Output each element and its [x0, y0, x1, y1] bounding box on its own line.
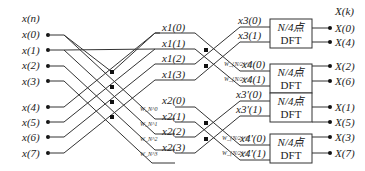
svg-text:x3'(0): x3'(0)	[235, 88, 262, 101]
svg-text:X(5): X(5)	[334, 116, 355, 129]
svg-text:W_{N/2}^0: W_{N/2}^0	[224, 61, 251, 68]
input-x3: x(3)	[21, 75, 40, 88]
dft-box-4: N/4点 DFT	[270, 134, 312, 163]
svg-text:x3(0): x3(0)	[237, 14, 262, 27]
stage1-lower-labels: x2(0) x2(1) x2(2) x2(3)	[161, 94, 186, 154]
stage2-block-b-labels: x3'(0) x3'(1) x4'(0) x4'(1) W_{N/2}^0 W_…	[222, 88, 266, 160]
svg-text:N/4点: N/4点	[277, 66, 307, 78]
input-x4: x(4)	[21, 101, 40, 114]
svg-text:W_{N/2}^1: W_{N/2}^1	[224, 76, 251, 83]
input-labels: x(0) x(1) x(2) x(3) x(4) x(5) x(6) x(7)	[21, 28, 40, 160]
dft-box-2: N/4点 DFT	[270, 64, 312, 93]
svg-text:W_N^0: W_N^0	[140, 106, 158, 112]
svg-text:X(6): X(6)	[334, 75, 355, 88]
stage1-wires	[48, 33, 175, 163]
output-labels: X(0) X(4) X(2) X(6) X(1) X(5) X(3) X(7)	[334, 22, 355, 160]
svg-text:x2(1): x2(1)	[161, 110, 186, 123]
input-header: x(n)	[21, 12, 40, 25]
svg-text:X(4): X(4)	[334, 36, 355, 49]
output-wires	[312, 28, 330, 153]
input-x6: x(6)	[21, 131, 40, 144]
svg-text:DFT: DFT	[281, 79, 302, 91]
svg-text:N/4点: N/4点	[277, 136, 307, 148]
svg-text:DFT: DFT	[281, 149, 302, 161]
svg-text:x2(3): x2(3)	[161, 141, 186, 154]
svg-text:x3'(1): x3'(1)	[235, 103, 262, 116]
svg-text:x2(0): x2(0)	[161, 94, 186, 107]
svg-text:x1(2): x1(2)	[161, 52, 186, 65]
svg-text:W_N^3: W_N^3	[140, 151, 158, 157]
svg-text:x2(2): x2(2)	[161, 125, 186, 138]
svg-text:W_{N/2}^1: W_{N/2}^1	[222, 150, 249, 157]
stage1-upper-labels: x1(0) x1(1) x1(2) x1(3)	[161, 21, 186, 81]
svg-text:X(3): X(3)	[334, 131, 355, 144]
svg-text:x3(1): x3(1)	[237, 29, 262, 42]
fft-butterfly-diagram: x(n) x(0) x(1) x(2) x(3) x(4) x(5) x(6) …	[0, 0, 365, 171]
svg-text:N/4点: N/4点	[277, 21, 307, 33]
output-header: X(k)	[334, 5, 354, 18]
input-x2: x(2)	[21, 59, 40, 72]
svg-text:W_N^2: W_N^2	[140, 136, 158, 142]
svg-text:N/4点: N/4点	[277, 95, 307, 107]
input-x7: x(7)	[21, 147, 40, 160]
svg-text:W_{N/2}^0: W_{N/2}^0	[222, 135, 249, 142]
output-nodes	[328, 26, 332, 155]
svg-text:DFT: DFT	[281, 34, 302, 46]
input-x0: x(0)	[21, 28, 40, 41]
input-x5: x(5)	[21, 116, 40, 129]
svg-text:W_N^1: W_N^1	[140, 121, 158, 127]
svg-text:X(2): X(2)	[334, 60, 355, 73]
svg-text:X(1): X(1)	[334, 101, 355, 114]
dft-box-1: N/4点 DFT	[270, 19, 312, 48]
input-x1: x(1)	[21, 44, 40, 57]
svg-text:X(7): X(7)	[334, 147, 355, 160]
svg-text:X(0): X(0)	[334, 22, 355, 35]
svg-text:x1(0): x1(0)	[161, 21, 186, 34]
svg-text:x1(3): x1(3)	[161, 68, 186, 81]
dft-box-3: N/4点 DFT	[270, 93, 312, 122]
svg-text:x1(1): x1(1)	[161, 37, 186, 50]
svg-text:DFT: DFT	[281, 108, 302, 120]
